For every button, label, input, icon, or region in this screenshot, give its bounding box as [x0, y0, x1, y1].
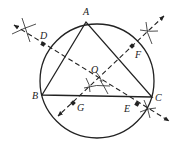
geometry-diagram: A B C O D E F G	[0, 0, 176, 148]
label-b: B	[32, 90, 38, 101]
label-g: G	[77, 102, 84, 113]
label-e: E	[123, 103, 130, 114]
label-d: D	[39, 30, 48, 41]
point-g-marker	[70, 100, 76, 106]
label-c: C	[155, 92, 162, 103]
label-f: F	[134, 49, 142, 60]
label-o: O	[91, 64, 98, 75]
label-a: A	[82, 6, 90, 17]
